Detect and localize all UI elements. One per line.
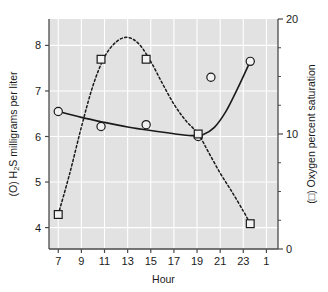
x-tick-label-15: 15 <box>145 255 157 267</box>
h2s-data-point-2[interactable] <box>142 121 150 129</box>
x-tick-label-7: 7 <box>55 255 61 267</box>
x-tick-label-17: 17 <box>168 255 180 267</box>
y-axis-left-title-prefix: (O) H <box>7 171 19 197</box>
y-left-tick-label-7: 7 <box>35 85 41 97</box>
oxygen-data-point-1[interactable] <box>97 55 105 63</box>
h2s-data-point-5[interactable] <box>246 57 254 65</box>
y-right-tick-label-20: 20 <box>286 13 298 25</box>
x-tick-label-19: 19 <box>191 255 203 267</box>
x-tick-label-21: 21 <box>214 255 226 267</box>
y-axis-right-title-group: (□) Oxygen percent saturation <box>305 64 317 204</box>
oxygen-data-point-2[interactable] <box>142 55 150 63</box>
oxygen-h2s-diel-chart: 79111315171921231 45678 01020 Hour (O) H… <box>0 0 328 292</box>
oxygen-data-point-0[interactable] <box>54 211 62 219</box>
y-right-tick-label-0: 0 <box>286 243 292 255</box>
y-right-tick-label-10: 10 <box>286 128 298 140</box>
chart-figure: 79111315171921231 45678 01020 Hour (O) H… <box>0 0 328 292</box>
y-left-tick-label-6: 6 <box>35 131 41 143</box>
h2s-data-point-1[interactable] <box>97 122 105 130</box>
oxygen-data-point-4[interactable] <box>246 220 254 228</box>
y-left-tick-label-8: 8 <box>35 39 41 51</box>
h2s-data-point-0[interactable] <box>54 107 62 115</box>
y-axis-right-title: (□) Oxygen percent saturation <box>305 64 317 204</box>
y-axis-left-title-suffix: S milligrams per liter <box>7 71 19 167</box>
x-tick-label-1: 1 <box>263 255 269 267</box>
y-left-tick-label-4: 4 <box>35 222 41 234</box>
y-left-tick-label-5: 5 <box>35 176 41 188</box>
oxygen-data-point-3[interactable] <box>194 130 202 138</box>
x-tick-label-11: 11 <box>99 255 110 267</box>
x-tick-label-9: 9 <box>78 255 84 267</box>
x-tick-label-23: 23 <box>237 255 249 267</box>
x-axis-title: Hour <box>152 273 175 285</box>
x-tick-label-13: 13 <box>122 255 134 267</box>
h2s-data-point-4[interactable] <box>207 73 215 81</box>
